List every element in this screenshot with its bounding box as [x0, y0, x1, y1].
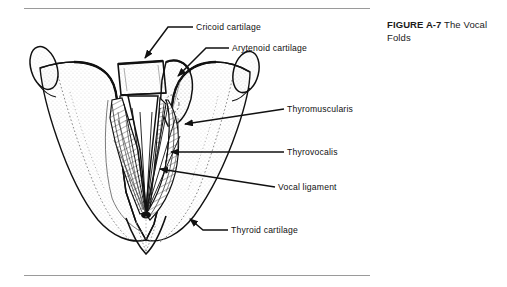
- figure-caption: FIGURE A-7 The Vocal Folds: [387, 19, 499, 44]
- callout-label-thyromuscularis: Thyromuscularis: [287, 104, 353, 114]
- callout-label-vocal-ligament: Vocal ligament: [278, 182, 337, 192]
- figure-number: FIGURE A-7: [387, 19, 441, 30]
- figure-page: Cricoid cartilage Arytenoid cartilage Th…: [0, 0, 507, 287]
- callout-label-thyroid: Thyroid cartilage: [231, 225, 298, 235]
- callout-label-arytenoid: Arytenoid cartilage: [232, 43, 307, 53]
- larynx-anatomy: [25, 43, 263, 254]
- cricoid-cartilage: [118, 61, 166, 95]
- callout-label-cricoid: Cricoid cartilage: [196, 22, 261, 32]
- callout-label-thyrovocalis: Thyrovocalis: [287, 147, 338, 157]
- callout-thyroid-cartilage: Thyroid cartilage: [190, 219, 298, 235]
